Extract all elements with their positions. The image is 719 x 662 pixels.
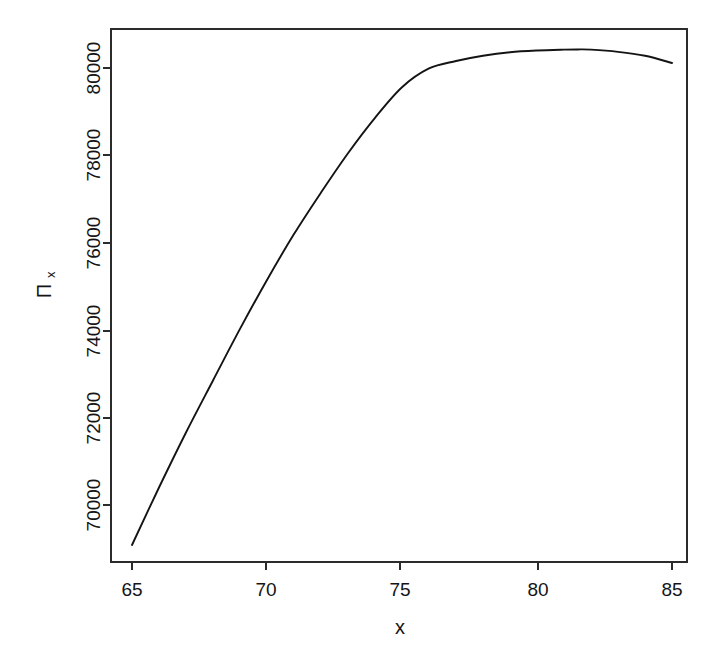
- y-tick-label-74000: 74000: [83, 305, 104, 358]
- plot-canvas: 80000 78000 76000 74000 72000 70000 Π x …: [0, 0, 719, 662]
- y-axis-title: Π x: [33, 271, 58, 298]
- y-axis-title-subscript: x: [43, 271, 58, 278]
- y-tick-label-78000: 78000: [83, 129, 104, 182]
- y-tick-label-70000: 70000: [83, 479, 104, 532]
- y-axis-title-symbol: Π: [33, 284, 55, 298]
- x-tick-label-75: 75: [389, 579, 410, 600]
- x-tick-label-65: 65: [121, 579, 142, 600]
- profit-curve: [132, 49, 672, 545]
- y-axis-ticks: [103, 68, 111, 505]
- x-tick-label-85: 85: [661, 579, 682, 600]
- x-axis-ticks: [132, 562, 672, 570]
- y-tick-label-76000: 76000: [83, 217, 104, 270]
- x-tick-label-70: 70: [255, 579, 276, 600]
- x-tick-label-80: 80: [527, 579, 548, 600]
- y-tick-label-80000: 80000: [83, 42, 104, 95]
- y-tick-label-72000: 72000: [83, 392, 104, 445]
- plot-box-border: [111, 29, 687, 562]
- x-axis-tick-labels: 65 70 75 80 85: [121, 579, 682, 600]
- y-axis-tick-labels: 80000 78000 76000 74000 72000 70000: [83, 42, 104, 532]
- chart-figure: 80000 78000 76000 74000 72000 70000 Π x …: [0, 0, 719, 662]
- x-axis-title: x: [395, 616, 405, 638]
